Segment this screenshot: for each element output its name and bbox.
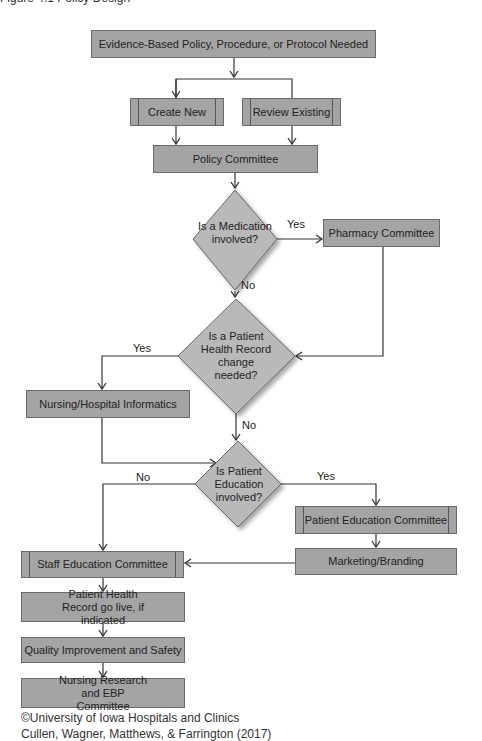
create-new-box: Create New bbox=[130, 98, 224, 126]
no-label-medication: No bbox=[241, 279, 255, 291]
credit-line-2: Cullen, Wagner, Matthews, & Farrington (… bbox=[21, 726, 271, 741]
research-box: Nursing Research and EBP Committee bbox=[21, 678, 185, 708]
pharmacy-committee-box: Pharmacy Committee bbox=[323, 219, 440, 247]
yes-label-patient-ed: Yes bbox=[317, 470, 335, 482]
no-label-patient-ed: No bbox=[136, 471, 150, 483]
decision-medication-text: Is a Medication involved? bbox=[198, 220, 272, 246]
credit-line-1: ©University of Iowa Hospitals and Clinic… bbox=[21, 710, 239, 726]
policy-committee-box: Policy Committee bbox=[153, 145, 318, 173]
patient-ed-committee-box: Patient Education Committee bbox=[295, 506, 457, 534]
informatics-box: Nursing/Hospital Informatics bbox=[26, 390, 190, 418]
quality-box: Quality Improvement and Safety bbox=[21, 637, 185, 663]
marketing-box: Marketing/Branding bbox=[295, 548, 457, 575]
staff-ed-committee-box: Staff Education Committee bbox=[21, 551, 184, 578]
no-label-phr: No bbox=[242, 419, 256, 431]
yes-label-phr: Yes bbox=[133, 342, 151, 354]
review-existing-box: Review Existing bbox=[242, 98, 341, 126]
yes-label-medication: Yes bbox=[287, 218, 305, 230]
start-box: Evidence-Based Policy, Procedure, or Pro… bbox=[91, 30, 376, 58]
decision-patient-ed-text: Is Patient Education involved? bbox=[208, 465, 270, 504]
phr-go-live-box: Patient Health Record go live, if indica… bbox=[21, 592, 185, 622]
decision-phr-text: Is a Patient Health Record change needed… bbox=[196, 330, 276, 382]
